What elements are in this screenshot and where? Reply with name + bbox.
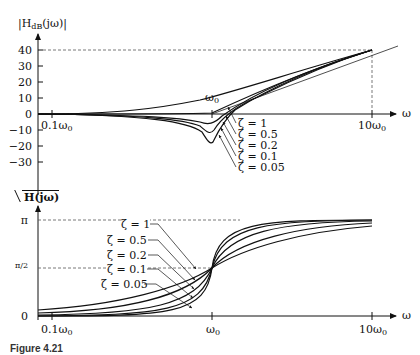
mag-ytick-m10: −10 [6,125,32,136]
mag-x-label: ω [402,108,411,119]
phase-xtick-0.1w0: 0.1ω0 [41,324,73,337]
mag-ytick-m30: −30 [6,157,32,168]
phase-x-label: ω [402,310,411,321]
phase-legend-zeta-0.1: ζ = 0.1 [107,264,147,275]
phase-xtick-10w0: 10ω0 [359,324,387,337]
mag-ytick-20: 20 [6,77,32,88]
phase-plot [38,206,396,320]
mag-xtick-0.1w0: 0.1ω0 [41,120,73,133]
magnitude-y-label: |HdB(jω)| [18,18,67,31]
phase-ytick-pi-2: π/2 [2,262,28,270]
phase-ytick-pi: π [2,215,28,226]
mag-ytick-m20: −20 [6,141,32,152]
phase-legend-zeta-1: ζ = 1 [121,219,150,230]
phase-legend-zeta-0.5: ζ = 0.5 [107,235,147,246]
figure-caption: Figure 4.21 [10,343,63,354]
mag-xtick-10w0: 10ω0 [358,120,386,133]
magnitude-plot [38,34,398,195]
phase-legend-zeta-0.2: ζ = 0.2 [107,250,147,261]
mag-legend-zeta-0.05: ζ = 0.05 [238,162,285,173]
bode-plots [0,0,420,355]
mag-ytick-40: 40 [6,45,32,56]
mag-xtick-w0: ω0 [205,92,219,105]
phase-y-label: H(jω) [22,192,59,203]
mag-ytick-0: 0 [6,109,32,120]
phase-ytick-0: 0 [2,311,28,322]
phase-legend-zeta-0.05: ζ = 0.05 [101,279,148,290]
phase-xtick-w0: ω0 [206,324,220,337]
mag-ytick-10: 10 [6,93,32,104]
mag-ytick-30: 30 [6,61,32,72]
